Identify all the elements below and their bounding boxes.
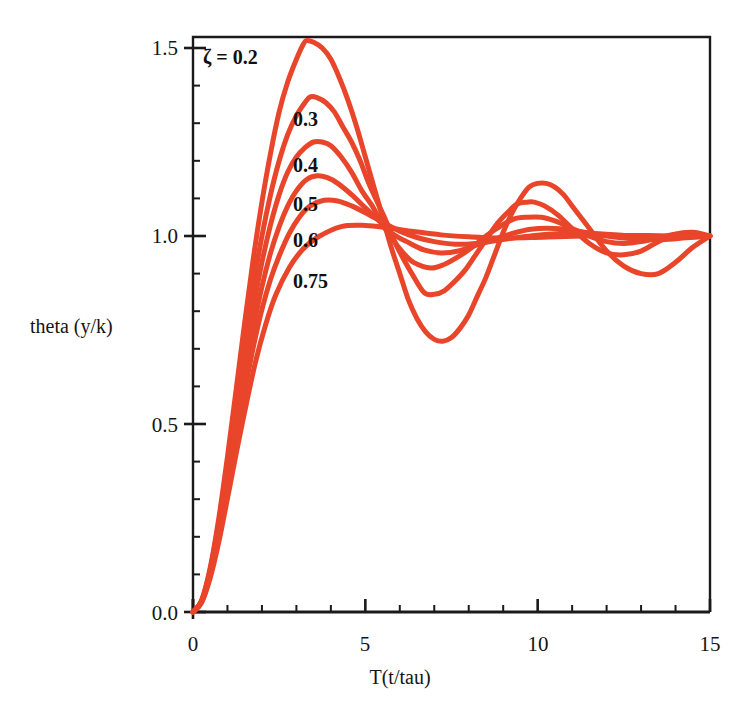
chart-figure: 0.0 0.5 1.0 1.5 0 5 10 15 theta (y/k) T(… xyxy=(0,0,749,716)
y-tick-label-3: 1.5 xyxy=(152,36,178,60)
x-axis-title: T(t/tau) xyxy=(369,666,430,689)
figure-background xyxy=(0,0,749,716)
y-tick-label-0: 0.0 xyxy=(152,601,178,625)
y-axis-title: theta (y/k) xyxy=(30,315,113,338)
step-response-plot: 0.0 0.5 1.0 1.5 0 5 10 15 theta (y/k) T(… xyxy=(0,0,749,716)
y-tick-label-1: 0.5 xyxy=(152,413,178,437)
y-tick-label-2: 1.0 xyxy=(152,224,178,248)
curve-label-0-3: 0.3 xyxy=(293,108,318,130)
curve-label-0-5: 0.5 xyxy=(293,193,318,215)
x-tick-label-1: 5 xyxy=(360,632,371,656)
curve-label-0-4: 0.4 xyxy=(293,154,318,176)
curve-label-0-75: 0.75 xyxy=(293,270,328,292)
curve-label-zeta-0-2: ζ = 0.2 xyxy=(203,46,258,68)
curve-label-0-6: 0.6 xyxy=(293,229,318,251)
x-tick-label-2: 10 xyxy=(528,632,549,656)
x-tick-label-3: 15 xyxy=(700,632,721,656)
x-tick-label-0: 0 xyxy=(188,632,199,656)
